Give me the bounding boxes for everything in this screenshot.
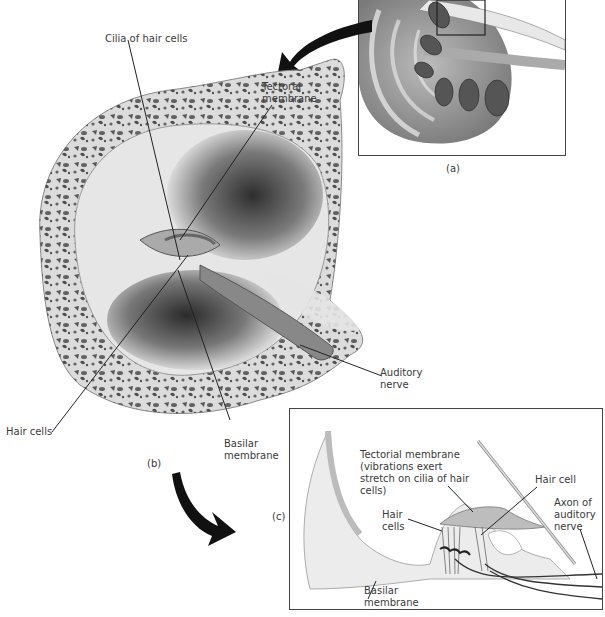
panel-c-label: (c) [272,511,285,523]
label-tectoral-membrane: Tectoral membrane [262,81,322,105]
label-hair-cells: Hair cells [6,426,52,438]
label-hair-cells-c: Hair cells [382,509,412,533]
label-cilia-of-hair-cells: Cilia of hair cells [105,33,187,45]
label-auditory-nerve: Auditory nerve [380,367,430,391]
panel-c-organ-of-corti: Tectorial membrane (vibrations exert str… [289,408,603,610]
label-axon-of-auditory-nerve: Axon of auditory nerve [554,497,599,533]
label-hair-cell: Hair cell [535,474,576,486]
panel-b-label: (b) [147,458,161,470]
label-tectorial-membrane: Tectorial membrane (vibrations exert str… [360,449,475,497]
label-basilar-membrane: Basilar membrane [224,438,279,462]
arrow-b-to-c-icon [172,472,236,546]
label-basilar-membrane-c: Basilar membrane [364,585,424,609]
